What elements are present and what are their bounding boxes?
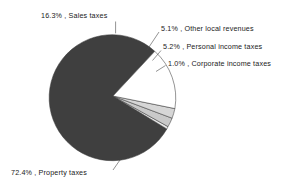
leader-line-other-local-revenues: [147, 32, 159, 50]
pie-chart-figure: 16.3% , Sales taxes 5.1% , Other local r…: [0, 0, 307, 190]
pie-label-corporate-income-taxes: 1.0% , Corporate income taxes: [168, 59, 271, 68]
pie-label-other-local-revenues: 5.1% , Other local revenues: [161, 24, 254, 33]
pie-label-sales-taxes: 16.3% , Sales taxes: [41, 11, 108, 20]
pie-label-property-taxes: 72.4% , Property taxes: [11, 168, 87, 177]
pie-label-personal-income-taxes: 5.2% , Personal income taxes: [163, 42, 263, 51]
pie-chart-svg: 16.3% , Sales taxes 5.1% , Other local r…: [0, 0, 307, 190]
